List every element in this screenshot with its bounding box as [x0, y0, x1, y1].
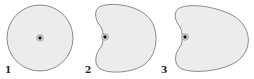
panel-3-elongated-cardioid — [175, 6, 248, 72]
panel-1-circle — [7, 5, 73, 71]
panel-3-label: 3 — [161, 66, 167, 75]
panel-2-label: 2 — [85, 66, 91, 75]
diagram-figure — [0, 0, 254, 79]
center-dot-icon — [181, 33, 188, 40]
center-dot-icon — [101, 33, 108, 40]
center-dot-icon — [36, 34, 43, 41]
panel-1-label: 1 — [5, 66, 11, 75]
panel-2-cardioid — [96, 4, 156, 72]
